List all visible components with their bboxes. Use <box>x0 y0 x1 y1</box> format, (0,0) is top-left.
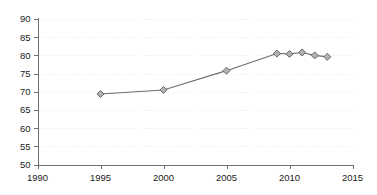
x-tick-label-2000: 2000 <box>153 172 174 183</box>
y-tick-label-75: 75 <box>20 68 31 79</box>
data-point-2013 <box>324 53 331 60</box>
y-tick-label-80: 80 <box>20 50 31 61</box>
x-tick-label-2010: 2010 <box>279 172 300 183</box>
x-tick-label-2005: 2005 <box>216 172 237 183</box>
gridlines-group <box>39 20 353 166</box>
y-tick-label-70: 70 <box>20 86 31 97</box>
x-axis-tick-labels: 199019952000200520102015 <box>27 172 363 183</box>
x-tick-label-1990: 1990 <box>27 172 48 183</box>
data-point-1995 <box>97 90 104 97</box>
y-tick-label-55: 55 <box>20 141 31 152</box>
y-tick-label-50: 50 <box>20 159 31 170</box>
y-tick-label-85: 85 <box>20 32 31 43</box>
x-tick-label-2015: 2015 <box>342 172 363 183</box>
x-tick-label-1995: 1995 <box>90 172 111 183</box>
chart-canvas: 505560657075808590 199019952000200520102… <box>0 0 377 195</box>
line-chart: 505560657075808590 199019952000200520102… <box>0 0 377 195</box>
data-point-2011 <box>299 49 306 56</box>
y-tick-label-60: 60 <box>20 123 31 134</box>
series-line-1 <box>101 52 328 93</box>
y-tick-label-90: 90 <box>20 13 31 24</box>
data-point-2012 <box>311 52 318 59</box>
data-point-2005 <box>223 67 230 74</box>
y-tick-label-65: 65 <box>20 104 31 115</box>
axis-lines-group <box>38 18 353 165</box>
y-axis-tick-labels: 505560657075808590 <box>20 13 31 170</box>
data-point-2009 <box>273 50 280 57</box>
